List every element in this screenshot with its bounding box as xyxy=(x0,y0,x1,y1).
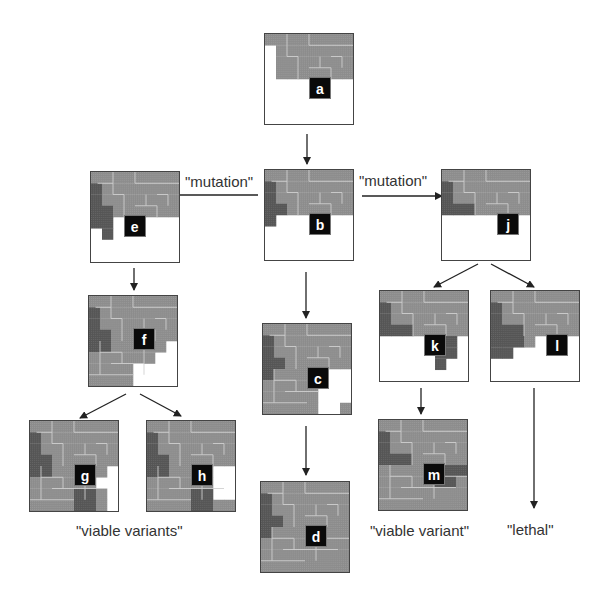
viable-variants-label: "viable variants" xyxy=(76,522,183,539)
puzzle-panel-f: f xyxy=(88,295,178,387)
mutation-label-left: "mutation" xyxy=(185,173,253,190)
arrow-f-to-g xyxy=(80,394,126,418)
arrow-j-to-l xyxy=(491,264,534,287)
puzzle-panel-g: g xyxy=(29,420,119,512)
node-tag-h: h xyxy=(191,464,213,486)
node-tag-k: k xyxy=(424,334,446,356)
puzzle-panel-b: b xyxy=(264,169,354,261)
puzzle-panel-j: j xyxy=(441,169,531,261)
mutation-label-right: "mutation" xyxy=(359,172,427,189)
node-tag-e: e xyxy=(124,215,146,237)
puzzle-panel-k: k xyxy=(379,290,469,382)
puzzle-panel-h: h xyxy=(146,420,236,512)
node-tag-b: b xyxy=(309,213,331,235)
viable-variant-label: "viable variant" xyxy=(370,522,469,539)
puzzle-panel-a: a xyxy=(264,33,354,125)
puzzle-panel-d: d xyxy=(260,481,350,573)
lethal-label: "lethal" xyxy=(507,521,554,538)
node-tag-f: f xyxy=(133,328,155,350)
arrow-j-to-k xyxy=(434,264,478,287)
puzzle-panel-m: m xyxy=(378,419,468,511)
node-tag-c: c xyxy=(307,367,329,389)
node-tag-j: j xyxy=(497,213,519,235)
puzzle-panel-c: c xyxy=(262,323,352,415)
node-tag-d: d xyxy=(305,525,327,547)
arrow-f-to-h xyxy=(140,394,181,416)
node-tag-m: m xyxy=(423,463,445,485)
node-tag-a: a xyxy=(309,77,331,99)
node-tag-g: g xyxy=(74,464,96,486)
node-tag-l: l xyxy=(546,334,568,356)
puzzle-panel-l: l xyxy=(490,290,580,382)
puzzle-panel-e: e xyxy=(90,171,180,263)
